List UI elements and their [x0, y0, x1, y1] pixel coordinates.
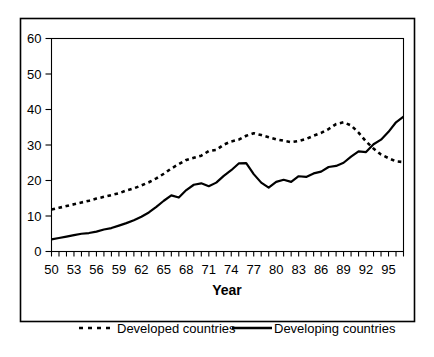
y-tick-label: 40 [27, 102, 41, 117]
x-tick-label: 68 [179, 262, 193, 277]
x-tick-label: 89 [336, 262, 350, 277]
x-tick-label: 62 [134, 262, 148, 277]
legend-item-developed: Developed countries [79, 321, 236, 336]
x-tick-label: 59 [112, 262, 126, 277]
y-tick-label: 20 [27, 173, 41, 188]
x-tick-label: 86 [314, 262, 328, 277]
plot-area-frame [52, 39, 404, 252]
y-tick-label: 10 [27, 209, 41, 224]
x-axis-title: Year [212, 282, 242, 298]
x-tick-label: 80 [269, 262, 283, 277]
x-tick-label: 95 [381, 262, 395, 277]
y-tick-label: 30 [27, 138, 41, 153]
legend-label-developing: Developing countries [274, 321, 396, 336]
chart-svg: 0102030405060 50535659626568717477808386… [0, 0, 434, 357]
legend-item-developing: Developing countries [232, 321, 396, 336]
chart-figure: 0102030405060 50535659626568717477808386… [0, 0, 434, 357]
x-tick-label: 83 [291, 262, 305, 277]
y-tick-label: 50 [27, 67, 41, 82]
x-tick-label: 56 [89, 262, 103, 277]
x-tick-label: 50 [44, 262, 58, 277]
x-tick-label: 92 [359, 262, 373, 277]
x-tick-label: 53 [67, 262, 81, 277]
y-tick-label: 0 [34, 244, 41, 259]
x-tick-label: 74 [224, 262, 238, 277]
legend-label-developed: Developed countries [117, 321, 236, 336]
y-tick-label: 60 [27, 31, 41, 46]
x-tick-label: 77 [246, 262, 260, 277]
x-tick-label: 65 [157, 262, 171, 277]
x-tick-label: 71 [202, 262, 216, 277]
legend: Developed countries Developing countries [79, 321, 396, 336]
